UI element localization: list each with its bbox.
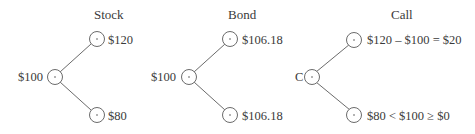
stock-up-branch	[60, 44, 91, 72]
bond-root-label: $100	[151, 70, 176, 84]
call-up-label: $120 – $100 = $20	[367, 33, 462, 47]
bond-up-label: $106.18	[242, 33, 283, 47]
call-root-label: C	[295, 70, 303, 84]
bond-down-branch	[194, 82, 225, 110]
stock-root-label: $100	[18, 70, 43, 84]
bond-up-branch	[194, 44, 225, 72]
stock-down-branch	[60, 82, 91, 110]
call-down-branch	[316, 82, 350, 110]
call-up-branch	[316, 44, 350, 72]
stock-down-label: $80	[108, 109, 127, 123]
stock-up-label: $120	[108, 33, 133, 47]
stock-title: Stock	[94, 8, 124, 22]
call-down-label: $80 < $100 ≥ $0	[367, 109, 450, 123]
bond-down-label: $106.18	[242, 109, 283, 123]
call-title: Call	[391, 8, 413, 22]
bond-title: Bond	[228, 8, 256, 22]
